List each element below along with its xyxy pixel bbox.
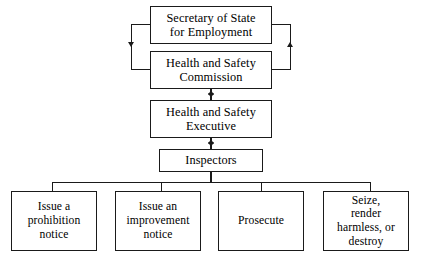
node-health-safety-executive: Health and Safety Executive	[150, 100, 272, 138]
connector-commission-right-stub	[271, 69, 291, 70]
node-inspectors: Inspectors	[159, 149, 263, 172]
node-prosecute: Prosecute	[218, 191, 304, 251]
node-secretary-of-state: Secretary of State for Employment	[150, 6, 272, 44]
connector-horizontal-bus	[52, 182, 371, 183]
node-seize-render-harmless-destroy-label: Seize, render harmless, or destroy	[324, 194, 408, 249]
connector-secretary-left-stub	[131, 24, 151, 25]
connector-secretary-right-stub	[271, 24, 291, 25]
node-issue-prohibition-notice-label: Issue a prohibition notice	[12, 200, 96, 241]
org-chart-diagram: Secretary of State for Employment Health…	[0, 0, 421, 262]
node-secretary-of-state-label: Secretary of State for Employment	[151, 11, 271, 40]
node-issue-improvement-notice: Issue an improvement notice	[115, 191, 201, 251]
arrowhead-up-commission-to-secretary	[287, 42, 293, 47]
node-issue-prohibition-notice: Issue a prohibition notice	[11, 191, 97, 251]
node-inspectors-label: Inspectors	[160, 153, 262, 168]
node-seize-render-harmless-destroy: Seize, render harmless, or destroy	[323, 191, 409, 251]
node-health-safety-commission: Health and Safety Commission	[150, 51, 272, 89]
arrowhead-up-executive-to-commission	[208, 90, 214, 95]
node-health-safety-executive-label: Health and Safety Executive	[151, 105, 271, 134]
node-issue-improvement-notice-label: Issue an improvement notice	[116, 200, 200, 241]
arrowhead-up-inspectors-to-executive	[208, 139, 214, 144]
node-health-safety-commission-label: Health and Safety Commission	[151, 56, 271, 85]
node-prosecute-label: Prosecute	[219, 214, 303, 228]
arrowhead-down-secretary-to-commission	[128, 42, 134, 47]
connector-commission-left-stub	[131, 69, 151, 70]
